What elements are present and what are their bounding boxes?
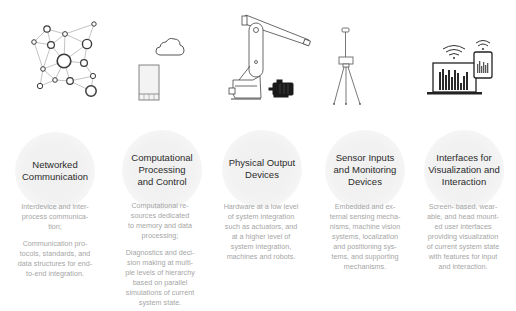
robot-arm-motor-icon <box>205 0 315 130</box>
category-description: Screen- based, wear- able, and head moun… <box>410 202 516 279</box>
column-computational-processing: Computational Processing and Control Com… <box>103 0 213 306</box>
category-bubble: Interfaces for Visualization and Interac… <box>424 130 504 210</box>
description-paragraph: Screen- based, wear- able, and head moun… <box>410 202 516 272</box>
category-description: Computational re- sources dedicated to m… <box>107 201 213 311</box>
category-bubble: Networked Communication <box>15 132 95 210</box>
description-paragraph: Computational re- sources dedicated to m… <box>107 201 213 241</box>
laptop-tablet-wireless-icon <box>410 0 516 130</box>
category-title: Networked Communication <box>22 159 88 183</box>
description-paragraph: Diagnostics and deci- sion making at mul… <box>107 248 213 308</box>
category-bubble: Computational Processing and Control <box>122 130 202 210</box>
column-networked-communication: Networked Communication Interdevice and … <box>0 0 110 306</box>
description-paragraph: Embedded and ex- ternal sensing mecha- n… <box>312 202 418 272</box>
category-title: Physical Output Devices <box>229 157 296 181</box>
category-description: Hardware at a low level of system integr… <box>207 202 315 269</box>
column-physical-output-devices: Physical Output Devices Hardware at a lo… <box>205 0 315 306</box>
category-description: Embedded and ex- ternal sensing mecha- n… <box>312 202 418 279</box>
category-title: Interfaces for Visualization and Interac… <box>428 152 500 188</box>
category-description: Interdevice and inter- process communica… <box>2 202 108 286</box>
description-paragraph: Hardware at a low level of system integr… <box>207 202 315 262</box>
column-interfaces: Interfaces for Visualization and Interac… <box>410 0 516 306</box>
category-title: Sensor Inputs and Monitoring Devices <box>334 152 397 188</box>
category-bubble: Physical Output Devices <box>222 130 302 208</box>
tripod-sensor-icon <box>310 0 420 130</box>
network-graph-icon <box>0 0 110 130</box>
cloud-server-icon <box>103 0 213 130</box>
category-title: Computational Processing and Control <box>131 152 192 188</box>
category-bubble: Sensor Inputs and Monitoring Devices <box>325 130 405 210</box>
description-paragraph: Communication pro- tocols, standards, an… <box>2 239 108 279</box>
description-paragraph: Interdevice and inter- process communica… <box>2 202 108 232</box>
column-sensor-inputs: Sensor Inputs and Monitoring Devices Emb… <box>310 0 420 306</box>
